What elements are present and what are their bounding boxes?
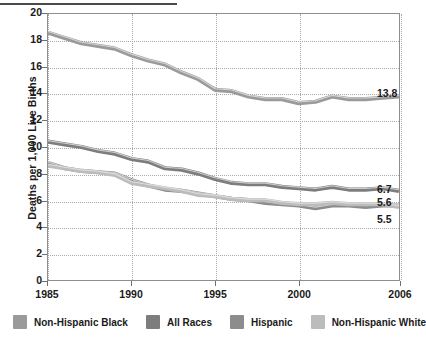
y-tick-label: 16 <box>18 60 42 72</box>
end-label-1: 6.7 <box>377 183 392 195</box>
y-tick-label: 20 <box>18 6 42 18</box>
end-label-0: 13.8 <box>377 87 397 99</box>
x-tick-mark <box>299 281 300 286</box>
x-tick-label: 2000 <box>274 288 324 300</box>
legend-label: All Races <box>167 317 212 328</box>
plot-area <box>47 13 400 281</box>
legend-swatch-icon <box>311 315 325 329</box>
y-tick-label: 2 <box>18 247 42 259</box>
x-tick-mark <box>131 281 132 286</box>
series-line-1 <box>48 142 399 191</box>
y-tick-label: 10 <box>18 140 42 152</box>
series-line-highlight-2 <box>48 162 399 207</box>
y-tick-label: 12 <box>18 113 42 125</box>
end-label-3: 5.5 <box>377 213 392 225</box>
legend-swatch-icon <box>146 315 160 329</box>
legend-item-3[interactable]: Non-Hispanic White <box>311 315 426 329</box>
legend-item-1[interactable]: All Races <box>146 315 212 329</box>
y-tick-label: 6 <box>18 194 42 206</box>
y-tick-label: 14 <box>18 86 42 98</box>
legend-item-2[interactable]: Hispanic <box>230 315 293 329</box>
y-tick-label: 8 <box>18 167 42 179</box>
y-tick-label: 4 <box>18 220 42 232</box>
series-line-2 <box>48 163 399 208</box>
series-line-0 <box>48 33 399 103</box>
legend-swatch-icon <box>230 315 244 329</box>
legend-swatch-icon <box>13 315 27 329</box>
x-tick-label: 1990 <box>106 288 156 300</box>
chart-legend: Non-Hispanic BlackAll RacesHispanicNon-H… <box>0 309 425 335</box>
x-tick-label: 2006 <box>375 288 425 300</box>
legend-item-0[interactable]: Non-Hispanic Black <box>13 315 128 329</box>
legend-label: Non-Hispanic Black <box>34 317 128 328</box>
x-tick-mark <box>215 281 216 286</box>
legend-label: Non-Hispanic White <box>332 317 426 328</box>
gridline-vertical <box>401 14 402 280</box>
y-tick-label: 0 <box>18 274 42 286</box>
x-tick-label: 1995 <box>190 288 240 300</box>
x-tick-mark <box>400 281 401 286</box>
y-tick-label: 18 <box>18 33 42 45</box>
x-tick-label: 1985 <box>22 288 72 300</box>
header-divider <box>0 3 177 5</box>
legend-label: Hispanic <box>251 317 293 328</box>
x-tick-mark <box>47 281 48 286</box>
end-label-2: 5.6 <box>377 196 392 208</box>
series-lines <box>48 14 399 280</box>
